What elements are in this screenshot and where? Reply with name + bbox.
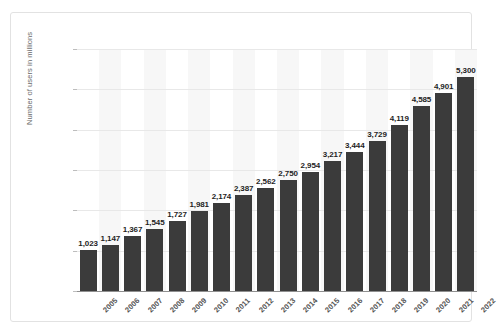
bar[interactable] xyxy=(346,152,363,291)
x-axis-tick-label: 2007 xyxy=(146,296,164,314)
bar-value-label: 3,217 xyxy=(323,150,343,159)
bar-value-label: 1,545 xyxy=(145,218,165,227)
x-axis-tick-label: 2020 xyxy=(434,296,452,314)
gridline xyxy=(77,89,477,90)
x-axis-tick-label: 2012 xyxy=(257,296,275,314)
gridline xyxy=(77,49,477,50)
bar[interactable] xyxy=(235,195,252,291)
x-axis-tick-label: 2008 xyxy=(168,296,186,314)
bar-value-label: 4,901 xyxy=(434,82,454,91)
x-axis-tick-label: 2018 xyxy=(390,296,408,314)
bar[interactable] xyxy=(124,236,141,291)
bar[interactable] xyxy=(369,141,386,291)
bar[interactable] xyxy=(102,245,119,291)
x-axis-tick-label: 2010 xyxy=(212,296,230,314)
bar-value-label: 3,444 xyxy=(345,141,365,150)
x-axis-tick-label: 2011 xyxy=(234,296,252,314)
x-axis-tick-label: 2013 xyxy=(279,296,297,314)
bar[interactable] xyxy=(391,125,408,291)
bar-value-label: 1,147 xyxy=(101,234,121,243)
bar-value-label: 1,981 xyxy=(189,200,209,209)
bar[interactable] xyxy=(435,93,452,291)
bar-value-label: 4,119 xyxy=(390,114,409,123)
bar[interactable] xyxy=(457,77,474,291)
bar-value-label: 5,300 xyxy=(456,66,476,75)
x-axis-tick-label: 2014 xyxy=(301,296,319,314)
bar-value-label: 2,174 xyxy=(212,192,232,201)
bar[interactable] xyxy=(302,172,319,291)
x-axis-tick-label: 2017 xyxy=(368,296,386,314)
bar[interactable] xyxy=(80,250,97,291)
axis-baseline xyxy=(77,291,477,292)
x-axis-tick-label: 2006 xyxy=(123,296,141,314)
bar-value-label: 2,387 xyxy=(234,184,254,193)
plot-area: 1,0231,1471,3671,5451,7271,9812,1742,387… xyxy=(77,49,477,291)
bar[interactable] xyxy=(324,161,341,291)
bar-value-label: 2,750 xyxy=(278,169,298,178)
x-axis-tick-label: 2009 xyxy=(190,296,208,314)
bar[interactable] xyxy=(146,229,163,291)
x-axis-tick-label: 2021 xyxy=(457,296,475,314)
x-axis-tick-label: 2015 xyxy=(323,296,341,314)
bar-value-label: 1,367 xyxy=(123,225,143,234)
bar[interactable] xyxy=(257,188,274,291)
bar[interactable] xyxy=(191,211,208,291)
x-axis-tick-label: 2019 xyxy=(412,296,430,314)
bar-value-label: 1,023 xyxy=(78,239,98,248)
y-axis-title: Number of users in millions xyxy=(25,32,34,125)
bar[interactable] xyxy=(413,106,430,291)
bar-value-label: 3,729 xyxy=(367,130,387,139)
x-axis-tick-label: 2022 xyxy=(479,296,497,314)
chart-frame: Number of users in millions 01,0002,0003… xyxy=(10,12,472,322)
bar-value-label: 1,727 xyxy=(167,210,187,219)
bar-value-label: 2,562 xyxy=(256,177,276,186)
bar[interactable] xyxy=(213,203,230,291)
bar-value-label: 4,585 xyxy=(412,95,432,104)
bar-value-label: 2,954 xyxy=(301,161,321,170)
bar[interactable] xyxy=(169,221,186,291)
bar[interactable] xyxy=(280,180,297,291)
x-axis-tick-label: 2016 xyxy=(346,296,364,314)
x-axis-tick-label: 2005 xyxy=(101,296,119,314)
